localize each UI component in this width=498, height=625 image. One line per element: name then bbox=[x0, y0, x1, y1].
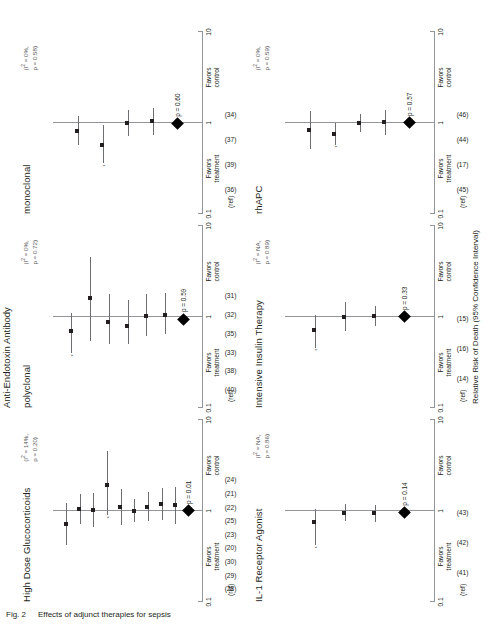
x-axis-tick-label: 1 bbox=[205, 121, 212, 125]
study-row bbox=[85, 226, 97, 408]
panel-anti-endotoxin-monoclonal: monoclonal(I2 = 0%,p = 0.58)‹p = 0.600.1… bbox=[19, 32, 244, 214]
favors-treatment-line2: treatment bbox=[213, 349, 220, 377]
reference-label: (39) bbox=[225, 161, 237, 168]
x-axis-tick-label: 10 bbox=[437, 222, 444, 229]
favors-treatment-label: Favorstreatment bbox=[437, 543, 453, 571]
favors-control-line1: Favors bbox=[437, 455, 444, 475]
favors-treatment-label: Favorstreatment bbox=[437, 349, 453, 377]
point-estimate-marker bbox=[357, 121, 361, 125]
x-axis-tick bbox=[198, 225, 203, 226]
x-axis-tick-label: 1 bbox=[205, 315, 212, 319]
point-estimate-marker bbox=[173, 503, 177, 507]
study-row bbox=[103, 226, 115, 408]
heterogeneity-intensive-insulin-therapy: (I2 = NA,p = 0.89) bbox=[251, 240, 271, 265]
reference-column-il-1-receptor-agonist: (ref)(41)(42)(43) bbox=[457, 420, 477, 602]
figure-caption: Fig. 2Effects of adjunct therapies for s… bbox=[6, 610, 171, 619]
heterogeneity-i2: (I2 = 0%, bbox=[251, 46, 263, 71]
study-row bbox=[170, 420, 182, 602]
study-row: ‹ bbox=[97, 32, 109, 214]
pooled-estimate-diamond bbox=[177, 313, 190, 326]
x-axis-line bbox=[434, 420, 435, 602]
figure-caption-text: Effects of adjunct therapies for sepsis bbox=[38, 610, 171, 619]
study-row bbox=[74, 420, 86, 602]
favors-control-label: Favorscontrol bbox=[205, 455, 221, 475]
pooled-p-value: p = 0.33 bbox=[401, 287, 408, 310]
favors-control-line1: Favors bbox=[437, 67, 444, 87]
x-axis-tick-label: 1 bbox=[205, 509, 212, 513]
reference-header: (ref) bbox=[459, 584, 466, 596]
point-estimate-marker bbox=[105, 483, 109, 487]
ci-truncation-marker: ‹ bbox=[332, 146, 338, 148]
ci-truncation-marker: ‹ bbox=[104, 516, 110, 518]
confidence-interval-line bbox=[128, 300, 129, 345]
favors-treatment-label: Favorstreatment bbox=[205, 349, 221, 377]
x-axis-tick-label: 0.1 bbox=[437, 209, 444, 218]
pooled-estimate-diamond bbox=[171, 117, 184, 130]
panel-row-bottom: IL-1 Receptor Agonist(I2 = NA,p = 0.86)‹… bbox=[251, 16, 476, 608]
pooled-estimate-diamond bbox=[398, 311, 411, 324]
confidence-interval-line bbox=[315, 509, 316, 545]
study-row bbox=[304, 32, 316, 214]
reference-label: (33) bbox=[225, 348, 237, 355]
reference-label: (28) bbox=[225, 585, 237, 592]
pooled-p-value: p = 0.01 bbox=[185, 481, 192, 504]
x-axis-tick bbox=[430, 31, 435, 32]
study-row: ‹ bbox=[329, 32, 341, 214]
ci-truncation-marker: ‹ bbox=[312, 349, 318, 351]
study-row bbox=[369, 226, 381, 408]
point-estimate-marker bbox=[132, 509, 136, 513]
ci-truncation-marker: ‹ bbox=[312, 546, 318, 548]
heterogeneity-anti-endotoxin-polyclonal: (I2 = 0%,p = 0.72) bbox=[19, 240, 39, 265]
plot-area-anti-endotoxin-monoclonal: ‹p = 0.60 bbox=[53, 32, 203, 214]
reference-label: (30) bbox=[225, 558, 237, 565]
pooled-p-value: p = 0.14 bbox=[401, 482, 408, 505]
reference-label: (35) bbox=[225, 330, 237, 337]
x-axis-tick bbox=[198, 419, 203, 420]
x-axis-tick-label: 0.1 bbox=[205, 209, 212, 218]
point-estimate-marker bbox=[88, 296, 92, 300]
panel-title-anti-endotoxin-polyclonal: polyclonal bbox=[21, 365, 32, 408]
study-row bbox=[122, 226, 134, 408]
x-axis-tick-label: 10 bbox=[205, 416, 212, 423]
heterogeneity-p: p = 0.86) bbox=[263, 434, 272, 459]
study-row: ‹ bbox=[66, 226, 78, 408]
plot-area-high-dose-glucocorticoids: ‹p = 0.01 bbox=[53, 420, 203, 602]
point-estimate-marker bbox=[125, 324, 129, 328]
favors-treatment-line2: treatment bbox=[213, 155, 220, 183]
favors-control-line2: control bbox=[445, 262, 452, 282]
pooled-estimate-diamond bbox=[403, 117, 416, 130]
heterogeneity-p: p = 0.58) bbox=[31, 46, 40, 71]
x-axis-tick-label: 10 bbox=[205, 222, 212, 229]
point-estimate-marker bbox=[150, 119, 154, 123]
heterogeneity-i2: (I2 = 0%, bbox=[19, 240, 31, 265]
x-axis-tick-label: 10 bbox=[205, 28, 212, 35]
favors-control-label: Favorscontrol bbox=[437, 261, 453, 281]
point-estimate-marker bbox=[125, 121, 129, 125]
reference-label: (34) bbox=[225, 111, 237, 118]
heterogeneity-p: p = 0.59) bbox=[263, 46, 272, 71]
panel-title-anti-endotoxin-monoclonal: monoclonal bbox=[21, 164, 32, 214]
ci-truncation-marker: ‹ bbox=[68, 354, 74, 356]
panel-rhapc: rhAPC(I2 = 0%,p = 0.59)‹p = 0.570.1110Fa… bbox=[251, 32, 476, 214]
study-row: ‹ bbox=[309, 420, 321, 602]
confidence-interval-line bbox=[71, 313, 72, 353]
favors-treatment-line1: Favors bbox=[205, 158, 212, 178]
point-estimate-marker bbox=[342, 315, 346, 319]
reference-label: (44) bbox=[457, 136, 469, 143]
plot-area-anti-endotoxin-polyclonal: ‹p = 0.59 bbox=[53, 226, 203, 408]
panel-title-il-1-receptor-agonist: IL-1 Receptor Agonist bbox=[253, 509, 264, 602]
point-estimate-marker bbox=[75, 129, 79, 133]
study-row bbox=[160, 226, 172, 408]
x-axis-tick-label: 10 bbox=[437, 28, 444, 35]
reference-label: (43) bbox=[457, 509, 469, 516]
x-axis-tick bbox=[198, 31, 203, 32]
panel-title-rhapc: rhAPC bbox=[253, 186, 264, 214]
point-estimate-marker bbox=[100, 143, 104, 147]
x-axis-tick-label: 0.1 bbox=[205, 597, 212, 606]
study-row bbox=[72, 32, 84, 214]
panel-high-dose-glucocorticoids: High Dose Glucocorticoids(I2 = 14%,p = 0… bbox=[19, 420, 244, 602]
plot-area-rhapc: ‹p = 0.57 bbox=[285, 32, 435, 214]
point-estimate-marker bbox=[118, 505, 122, 509]
study-row bbox=[115, 420, 127, 602]
x-axis-tick bbox=[430, 407, 435, 408]
